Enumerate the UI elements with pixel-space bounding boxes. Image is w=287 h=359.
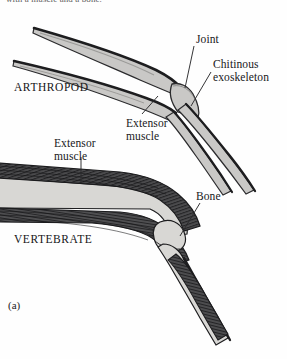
label-chitinous-line1: Chitinous xyxy=(213,58,269,71)
label-chitinous-line2: exoskeleton xyxy=(213,71,269,84)
vertebrate-limb-group xyxy=(0,157,230,345)
label-arthropod: ARTHROPOD xyxy=(14,81,89,93)
label-joint: Joint xyxy=(196,33,219,46)
label-extensor-muscle-vertebrate: Extensor muscle xyxy=(54,137,96,162)
label-bone: Bone xyxy=(196,190,221,203)
vertebrate-muscle-distal xyxy=(168,254,228,340)
label-chitinous-exoskeleton: Chitinous exoskeleton xyxy=(213,58,269,83)
label-vertebrate: VERTEBRATE xyxy=(14,233,92,245)
leader-line-chitinous xyxy=(191,72,211,106)
label-extensor-vertebrate-line2: muscle xyxy=(54,150,96,163)
label-extensor-vertebrate-line1: Extensor xyxy=(54,137,96,150)
figure-arthropod-vertebrate-limb: with a muscle and a bone. xyxy=(0,0,287,359)
panel-letter-a: (a) xyxy=(8,299,20,311)
label-extensor-arthropod-line2: muscle xyxy=(126,130,168,143)
label-extensor-muscle-arthropod: Extensor muscle xyxy=(126,117,168,142)
leader-line-joint xyxy=(185,46,194,88)
label-extensor-arthropod-line1: Extensor xyxy=(126,117,168,130)
limb-diagram xyxy=(0,0,287,359)
